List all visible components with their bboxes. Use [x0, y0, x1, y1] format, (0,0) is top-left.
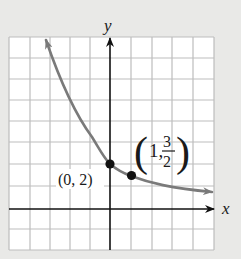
label-whole: 1, — [149, 140, 163, 161]
label-denominator: 2 — [163, 153, 171, 170]
label-numerator: 3 — [163, 133, 171, 150]
point-label-1-three-halves: ( 1, 3 2 ) — [134, 128, 193, 176]
point-0-2 — [105, 159, 114, 168]
label-close-paren: ) — [176, 129, 190, 176]
exponential-graph-figure: x y (0, 2) ( 1, 3 2 ) — [0, 0, 241, 259]
point-label-0-2: (0, 2) — [58, 171, 93, 189]
x-axis-label: x — [221, 199, 230, 218]
label-open-paren: ( — [134, 129, 148, 176]
y-axis-label: y — [102, 16, 112, 35]
